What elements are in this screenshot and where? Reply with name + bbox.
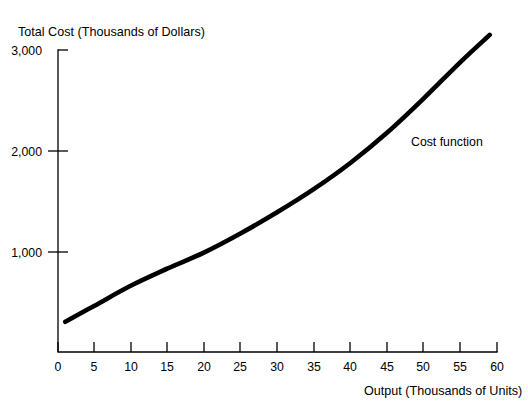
y-axis-tick-labels: 3,000 2,000 1,000 bbox=[11, 44, 42, 260]
y-tick-label-1000: 1,000 bbox=[11, 246, 42, 260]
x-tick-label-20: 20 bbox=[197, 360, 211, 374]
x-tick-label-15: 15 bbox=[160, 360, 174, 374]
x-tick-label-40: 40 bbox=[343, 360, 357, 374]
y-axis-title: Total Cost (Thousands of Dollars) bbox=[18, 25, 205, 39]
chart-canvas: Total Cost (Thousands of Dollars) 3,000 … bbox=[0, 0, 528, 412]
x-axis-ticks bbox=[58, 342, 497, 352]
x-axis-tick-labels: 0 5 10 15 20 25 30 35 40 45 50 55 60 bbox=[55, 360, 504, 374]
axis-lines bbox=[58, 50, 497, 352]
x-tick-label-35: 35 bbox=[307, 360, 321, 374]
x-tick-label-55: 55 bbox=[453, 360, 467, 374]
x-tick-label-30: 30 bbox=[270, 360, 284, 374]
cost-function-annotation: Cost function bbox=[411, 135, 483, 149]
x-tick-label-45: 45 bbox=[380, 360, 394, 374]
x-axis-title: Output (Thousands of Units) bbox=[364, 384, 522, 398]
cost-function-chart: Total Cost (Thousands of Dollars) 3,000 … bbox=[0, 0, 528, 412]
x-tick-label-50: 50 bbox=[416, 360, 430, 374]
y-tick-label-2000: 2,000 bbox=[11, 145, 42, 159]
x-tick-label-0: 0 bbox=[55, 360, 62, 374]
cost-function-curve bbox=[65, 35, 489, 322]
y-tick-label-3000: 3,000 bbox=[11, 44, 42, 58]
x-tick-label-10: 10 bbox=[124, 360, 138, 374]
x-tick-label-5: 5 bbox=[91, 360, 98, 374]
x-tick-label-60: 60 bbox=[490, 360, 504, 374]
x-tick-label-25: 25 bbox=[233, 360, 247, 374]
